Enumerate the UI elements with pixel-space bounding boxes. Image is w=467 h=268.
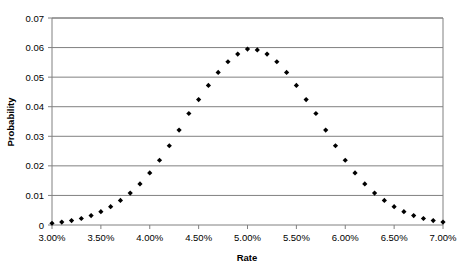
y-tick-label: 0.03 bbox=[26, 131, 45, 142]
x-tick-label: 5.00% bbox=[234, 232, 261, 243]
y-tick-label: 0.06 bbox=[26, 42, 45, 53]
x-tick-label: 3.50% bbox=[87, 232, 114, 243]
y-tick-label: 0.07 bbox=[26, 13, 45, 24]
x-axis-title: Rate bbox=[237, 252, 258, 263]
y-tick-label: 0.01 bbox=[26, 190, 45, 201]
x-tick-label: 6.00% bbox=[332, 232, 359, 243]
y-axis-title: Probability bbox=[5, 97, 16, 147]
chart-background bbox=[0, 0, 467, 268]
y-tick-label: 0.04 bbox=[26, 101, 45, 112]
x-tick-label: 6.50% bbox=[381, 232, 408, 243]
x-tick-label: 4.50% bbox=[185, 232, 212, 243]
y-tick-label: 0 bbox=[39, 220, 44, 231]
probability-distribution-chart: 3.00%3.50%4.00%4.50%5.00%5.50%6.00%6.50%… bbox=[0, 0, 467, 268]
x-tick-label: 5.50% bbox=[283, 232, 310, 243]
y-tick-label: 0.02 bbox=[26, 160, 45, 171]
y-tick-label: 0.05 bbox=[26, 72, 45, 83]
x-axis-tick-labels: 3.00%3.50%4.00%4.50%5.00%5.50%6.00%6.50%… bbox=[39, 232, 457, 243]
x-tick-label: 7.00% bbox=[430, 232, 457, 243]
x-tick-label: 4.00% bbox=[136, 232, 163, 243]
chart-screenshot: 3.00%3.50%4.00%4.50%5.00%5.50%6.00%6.50%… bbox=[0, 0, 467, 268]
x-tick-label: 3.00% bbox=[39, 232, 66, 243]
